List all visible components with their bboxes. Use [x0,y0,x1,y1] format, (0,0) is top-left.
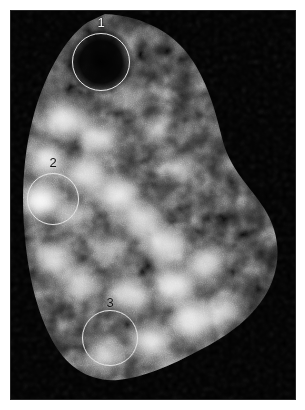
roi-label-1: 1 [91,16,111,29]
roi-circle-3[interactable] [82,310,138,366]
roi-circle-2[interactable] [27,173,79,225]
roi-label-2: 2 [43,156,63,169]
roi-circle-1[interactable] [72,33,130,91]
roi-label-3: 3 [100,296,120,309]
scan-figure: 1 2 3 [0,0,305,410]
scan-image-panel: 1 2 3 [10,10,296,400]
